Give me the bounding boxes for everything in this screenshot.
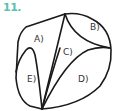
region-label-b: B) (90, 22, 100, 32)
region-label-d: D) (78, 74, 88, 84)
region-label-c: C) (63, 47, 73, 57)
region-label-e: E) (27, 74, 36, 84)
region-label-a: A) (34, 34, 44, 44)
divider-c-inner (42, 48, 60, 109)
divider-b-c (65, 14, 110, 48)
region-diagram: A) B) C) D) E) (0, 0, 117, 111)
divider-c-d (42, 47, 110, 109)
